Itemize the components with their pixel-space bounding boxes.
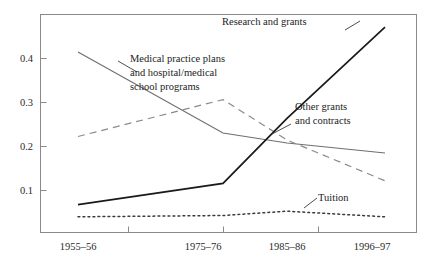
series-label-other-grants-and-contracts: Other grants and contracts [295, 101, 351, 126]
y-tick-label-0.3: 0.3 [20, 97, 33, 108]
x-tick-label-1975-76: 1975–76 [185, 241, 222, 252]
series-label-other-line-1: Other grants [295, 101, 347, 112]
leader-line-other-grants-and-contracts [272, 124, 291, 134]
plot-area-frame [41, 15, 417, 233]
x-axis-tick-labels: 1955–56 1975–76 1985–86 1996–97 [60, 241, 391, 252]
chart-figure: 0.4 0.3 0.2 0.1 1955–56 1975–76 1985–86 … [0, 0, 422, 266]
x-tick-label-1996-97: 1996–97 [354, 241, 391, 252]
leader-line-tuition [304, 198, 317, 208]
series-label-research-and-grants: Research and grants [222, 16, 307, 27]
x-tick-label-1955-56: 1955–56 [60, 241, 97, 252]
series-label-medical-line-1: Medical practice plans [130, 53, 225, 64]
x-tick-label-1985-86: 1985–86 [269, 241, 306, 252]
line-chart: 0.4 0.3 0.2 0.1 1955–56 1975–76 1985–86 … [0, 0, 422, 266]
x-axis-ticks [129, 227, 319, 233]
y-tick-label-0.4: 0.4 [20, 53, 34, 64]
series-label-other-line-2: and contracts [295, 115, 351, 126]
y-tick-label-0.1: 0.1 [20, 185, 33, 196]
leader-line-research-and-grants [345, 21, 360, 30]
series-label-medical-practice-plans: Medical practice plans and hospital/medi… [130, 53, 225, 92]
y-axis-tick-labels: 0.4 0.3 0.2 0.1 [20, 53, 34, 196]
y-tick-label-0.2: 0.2 [20, 141, 33, 152]
series-label-tuition: Tuition [318, 192, 349, 203]
y-axis-ticks [41, 59, 47, 191]
series-label-medical-line-3: school programs [130, 81, 200, 92]
series-line-tuition [78, 211, 385, 217]
series-label-medical-line-2: and hospital/medical [130, 67, 217, 78]
